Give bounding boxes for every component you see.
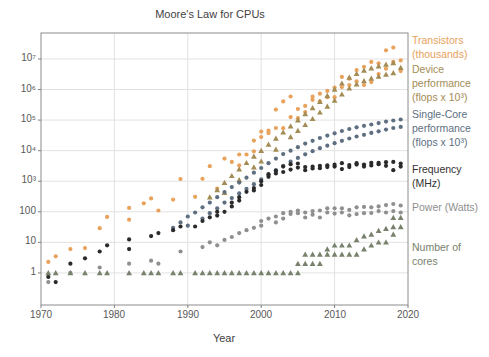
- legend-cores: Number of cores: [412, 240, 488, 268]
- x-tick-label: 2010: [315, 309, 355, 320]
- legend-single-core-performance: Single-Core performance (flops x 10³): [412, 107, 488, 149]
- x-axis-title: Year: [194, 332, 254, 344]
- x-tick-label: 1990: [168, 309, 208, 320]
- y-tick-label: 10⁷: [0, 52, 36, 63]
- y-tick-label: 10⁵: [0, 113, 36, 124]
- y-tick-label: 1: [0, 266, 36, 277]
- x-tick-label: 1980: [94, 309, 134, 320]
- legend-frequency: Frequency (MHz): [412, 162, 488, 190]
- y-tick-label: 100: [0, 205, 36, 216]
- legend-device-performance: Device performance (flops x 10³): [412, 62, 488, 104]
- y-tick-label: 10: [0, 235, 36, 246]
- chart-figure: Moore's Law for CPUs 10⁷ 10⁶ 10⁵ 10⁴ 10³…: [0, 0, 489, 357]
- x-tick-label: 2000: [241, 309, 281, 320]
- series-single-core-performance: [171, 117, 403, 229]
- legend-power: Power (Watts): [412, 200, 488, 214]
- y-tick-label: 10⁴: [0, 144, 36, 155]
- x-tick-label: 2020: [388, 309, 428, 320]
- series-device-performance: [207, 60, 404, 199]
- y-tick-label: 10⁶: [0, 83, 36, 94]
- legend-transistors: Transistors (thousands): [412, 33, 488, 61]
- x-tick-label: 1970: [21, 309, 61, 320]
- y-tick-label: 10³: [0, 174, 36, 185]
